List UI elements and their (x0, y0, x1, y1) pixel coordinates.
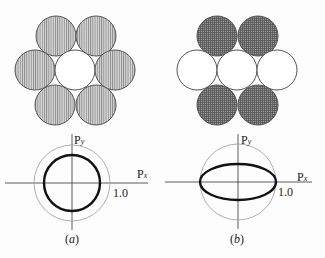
polar-plot-a (5, 134, 148, 230)
tick-label-a: 1.0 (113, 187, 128, 199)
fiber-mid-right-b (257, 50, 297, 90)
fiber-top-right-a (76, 16, 116, 56)
py-label-a: Py (74, 134, 84, 146)
caption-a: (a) (65, 233, 79, 245)
px-label-a: Px (137, 168, 147, 180)
fiber-top-left-a (36, 16, 76, 56)
fiber-mid-left-a (15, 50, 55, 90)
py-label-b: Py (241, 134, 251, 146)
fiber-top-right-b (238, 16, 278, 56)
fiber-bottom-left-a (35, 85, 75, 125)
fiber-center-a (55, 50, 95, 90)
fiber-mid-left-b (177, 50, 217, 90)
fiber-center-b (217, 50, 257, 90)
polar-plot-b (165, 134, 312, 229)
fiber-bottom-right-b (238, 85, 278, 125)
fiber-top-left-b (197, 16, 237, 56)
fiber-cluster-a (15, 16, 135, 125)
px-label-b: Px (297, 171, 307, 183)
caption-b: (b) (230, 233, 244, 245)
fiber-mid-right-a (95, 50, 135, 90)
figure-canvas (0, 0, 325, 258)
fiber-bottom-left-b (197, 85, 237, 125)
fiber-bottom-right-a (76, 85, 116, 125)
fiber-cluster-b (177, 16, 297, 125)
tick-label-b: 1.0 (278, 186, 293, 198)
